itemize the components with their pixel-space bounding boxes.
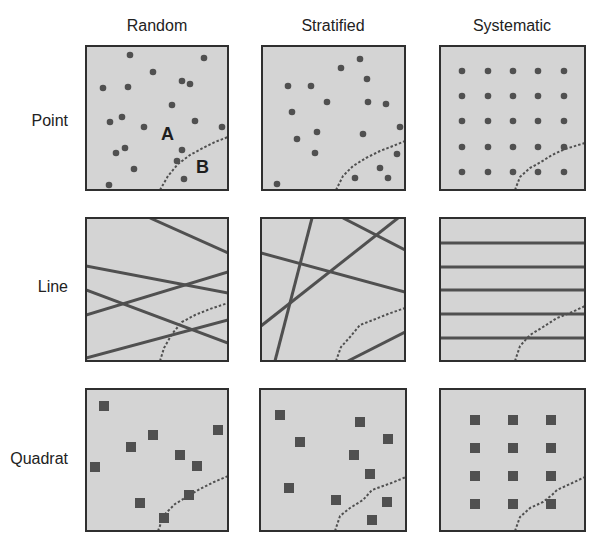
sample-point — [383, 101, 390, 108]
panel-systematic-line — [440, 218, 585, 361]
sample-point — [535, 144, 542, 151]
panel-grid — [86, 46, 585, 531]
sample-point — [274, 181, 281, 188]
sample-point — [535, 93, 542, 100]
quadrat-square — [99, 401, 109, 411]
quadrat-square — [546, 443, 556, 453]
sample-point — [141, 124, 148, 131]
quadrat-square — [546, 471, 556, 481]
quadrat-square — [546, 499, 556, 509]
sample-point — [285, 83, 292, 90]
sample-point — [131, 166, 138, 173]
sample-point — [192, 118, 199, 125]
quadrat-square — [184, 490, 194, 500]
row-label-line: Line — [38, 278, 68, 295]
panel-background — [262, 46, 405, 190]
sample-point — [459, 93, 466, 100]
quadrat-square — [508, 499, 518, 509]
sample-point — [394, 151, 401, 158]
sample-point — [100, 85, 107, 92]
row-label-quadrat: Quadrat — [10, 450, 68, 467]
quadrat-square — [470, 499, 480, 509]
sample-point — [510, 169, 517, 176]
sample-point — [485, 93, 492, 100]
quadrat-square — [148, 430, 158, 440]
sample-point — [294, 136, 301, 143]
panel-background — [440, 389, 585, 531]
quadrat-square — [135, 498, 145, 508]
sample-point — [187, 81, 194, 88]
sample-point — [314, 129, 321, 136]
sample-point — [385, 175, 392, 182]
panel-stratified-point — [262, 46, 405, 190]
quadrat-square — [295, 437, 305, 447]
sample-point — [561, 144, 568, 151]
region-label-b: B — [196, 157, 209, 177]
quadrat-square — [508, 471, 518, 481]
sample-point — [352, 175, 359, 182]
sample-point — [397, 124, 404, 131]
sample-point — [308, 83, 315, 90]
sample-point — [510, 118, 517, 125]
sample-point — [127, 52, 134, 59]
sample-point — [485, 169, 492, 176]
sample-point — [324, 99, 331, 106]
sample-point — [561, 169, 568, 176]
quadrat-square — [470, 471, 480, 481]
sample-point — [510, 93, 517, 100]
sample-point — [510, 68, 517, 75]
quadrat-square — [192, 461, 202, 471]
sample-point — [289, 109, 296, 116]
sample-point — [377, 165, 384, 172]
quadrat-square — [159, 513, 169, 523]
sample-point — [113, 150, 120, 157]
quadrat-square — [355, 417, 365, 427]
quadrat-square — [275, 410, 285, 420]
sample-point — [201, 55, 208, 62]
sample-point — [106, 182, 113, 189]
sample-point — [535, 68, 542, 75]
sample-point — [459, 118, 466, 125]
sample-point — [357, 56, 364, 63]
column-label-systematic: Systematic — [473, 17, 551, 34]
sample-point — [485, 118, 492, 125]
region-label-a: A — [161, 124, 174, 144]
column-label-random: Random — [127, 17, 187, 34]
quadrat-square — [382, 497, 392, 507]
sample-point — [561, 118, 568, 125]
quadrat-square — [365, 469, 375, 479]
quadrat-square — [546, 415, 556, 425]
sample-point — [107, 119, 114, 126]
sample-point — [561, 68, 568, 75]
sample-point — [364, 76, 371, 83]
sample-point — [338, 65, 345, 72]
sample-point — [535, 169, 542, 176]
sample-point — [561, 93, 568, 100]
quadrat-square — [90, 462, 100, 472]
quadrat-square — [349, 450, 359, 460]
panel-random-quadrat — [86, 389, 228, 531]
sample-point — [181, 176, 188, 183]
panel-random-line — [86, 218, 228, 361]
quadrat-square — [508, 443, 518, 453]
panel-stratified-line — [261, 218, 405, 361]
quadrat-square — [175, 450, 185, 460]
panel-stratified-quadrat — [260, 389, 406, 531]
quadrat-square — [213, 425, 223, 435]
column-labels: Random Stratified Systematic — [127, 17, 551, 34]
sample-point — [459, 68, 466, 75]
sample-point — [122, 145, 129, 152]
sampling-design-figure: Random Stratified Systematic Point Line … — [0, 0, 594, 543]
sample-point — [459, 169, 466, 176]
row-label-point: Point — [32, 112, 69, 129]
sample-point — [312, 150, 319, 157]
sample-point — [179, 147, 186, 154]
quadrat-square — [367, 515, 377, 525]
sample-point — [360, 131, 367, 138]
sample-point — [119, 114, 126, 121]
sample-point — [150, 69, 157, 76]
sample-point — [365, 99, 372, 106]
sample-point — [125, 84, 132, 91]
sample-point — [459, 144, 466, 151]
quadrat-square — [284, 483, 294, 493]
